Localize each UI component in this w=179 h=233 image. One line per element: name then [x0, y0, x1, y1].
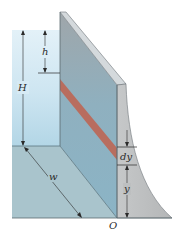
dam-diagram: h H w dy y O	[0, 0, 179, 233]
label-origin: O	[109, 220, 117, 231]
label-H: H	[17, 82, 27, 93]
label-y: y	[123, 183, 130, 194]
label-w: w	[49, 171, 58, 182]
label-h: h	[42, 46, 48, 57]
label-dy: dy	[120, 151, 132, 162]
